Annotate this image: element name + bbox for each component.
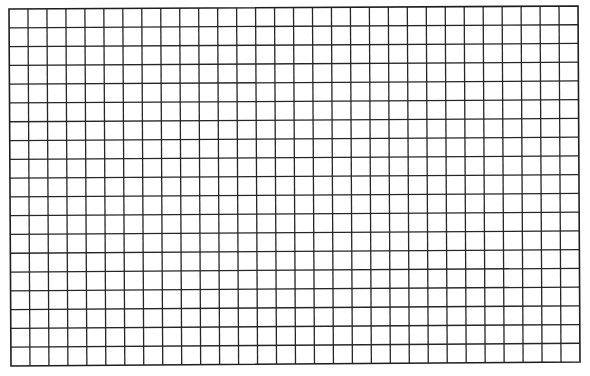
- blank-grid: [0, 0, 590, 376]
- grid-column-line: [85, 9, 87, 366]
- grid-column-line: [218, 8, 220, 365]
- grid-column-line: [28, 9, 30, 366]
- grid-column-line: [312, 7, 314, 363]
- grid-column-line: [426, 7, 428, 363]
- grid-column-line: [388, 7, 390, 363]
- grid-column-line: [199, 8, 201, 365]
- grid-column-line: [559, 6, 561, 362]
- grid-column-line: [445, 7, 447, 363]
- grid-column-line: [161, 8, 163, 365]
- grid-column-line: [540, 6, 542, 362]
- grid-column-line: [142, 8, 144, 365]
- grid-column-line: [294, 8, 296, 365]
- grid-column-line: [521, 6, 523, 362]
- grid-column-line: [275, 8, 277, 365]
- grid-column-line: [369, 7, 371, 363]
- grid-column-line: [256, 8, 258, 365]
- grid-column-line: [180, 8, 182, 365]
- grid-column-line: [464, 7, 466, 363]
- grid-column-line: [502, 6, 504, 362]
- grid-column-line: [47, 9, 49, 366]
- grid-column-line: [237, 8, 239, 365]
- grid-column-line: [483, 7, 485, 363]
- grid-column-line: [123, 8, 125, 365]
- grid-column-line: [66, 9, 68, 366]
- grid-column-line: [331, 7, 333, 363]
- grid-lines: [9, 6, 580, 366]
- grid-column-line: [104, 9, 106, 366]
- grid-column-line: [407, 7, 409, 363]
- grid-column-line: [350, 7, 352, 363]
